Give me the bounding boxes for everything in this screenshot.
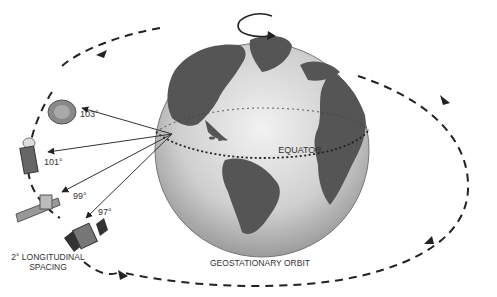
satellite-103: 103° (48, 100, 99, 124)
geostationary-diagram: EQUATOR 103° 101° 99° 97° 2° LONGITUDINA… (0, 0, 497, 297)
satellite-101: 101° (20, 138, 63, 174)
rotation-arrow-icon (238, 14, 276, 40)
satellite-99: 99° (16, 191, 87, 222)
longitude-label: 97° (98, 207, 112, 217)
longitude-label: 103° (80, 109, 99, 119)
longitude-label: 101° (44, 157, 63, 167)
orbit-arrow-icon (96, 50, 107, 58)
signal-beams (48, 108, 172, 218)
spacing-label-line2: SPACING (29, 262, 67, 272)
orbit-arrow-icon (440, 95, 450, 105)
orbit-arrow-icon (118, 270, 128, 280)
orbit-arrow-icon (424, 236, 434, 244)
equator-label: EQUATOR (278, 145, 322, 155)
spacing-label-line1: 2° LONGITUDINAL (11, 252, 85, 262)
earth-globe (155, 36, 369, 257)
solar-panel-satellite-icon (16, 198, 60, 222)
longitude-label: 99° (73, 191, 87, 201)
orbit-label: GEOSTATIONARY ORBIT (210, 258, 310, 268)
satellite-97: 97° (64, 207, 112, 252)
